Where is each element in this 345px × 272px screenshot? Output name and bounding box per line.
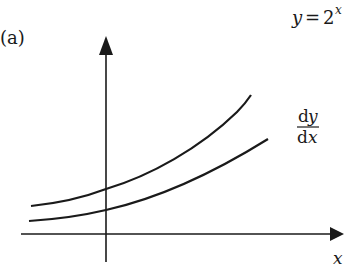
svg-text:d: d [297,127,308,147]
svg-text:x: x [308,127,318,147]
curve-dy-dx [29,139,268,221]
svg-text:y: y [291,7,303,28]
graph: (a) x y = 2 x d y d x [0,0,345,272]
svg-text:2: 2 [323,7,334,28]
x-axis-arrow-icon [330,227,344,241]
curve1-label: y = 2 x [291,3,342,28]
curve-y-equals-2-pow-x [31,95,251,206]
svg-text:y: y [307,106,318,126]
y-axis-arrow-icon [99,36,113,55]
curve2-label: d y d x [297,106,319,147]
part-label: (a) [0,27,25,48]
svg-text:x: x [335,3,342,17]
svg-text:=: = [305,7,320,28]
x-axis-label: x [333,248,343,268]
